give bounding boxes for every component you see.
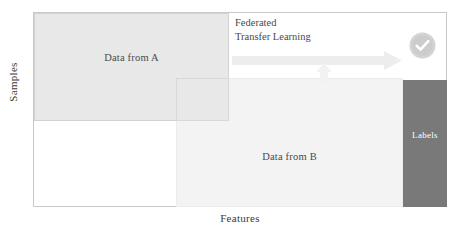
data-block-a-label: Data from A bbox=[35, 52, 228, 63]
check-circle-icon bbox=[409, 32, 436, 59]
labels-column: Labels bbox=[403, 80, 447, 207]
arrow-group bbox=[232, 50, 407, 84]
caption-line-1: Federated bbox=[235, 16, 395, 30]
x-axis-label: Features bbox=[33, 212, 447, 224]
y-axis-label: Samples bbox=[7, 47, 19, 117]
labels-column-label: Labels bbox=[403, 130, 447, 140]
right-arrow-icon bbox=[232, 51, 402, 70]
data-block-b-label: Data from B bbox=[177, 151, 402, 162]
caption-line-2: Transfer Learning bbox=[235, 30, 395, 44]
federated-transfer-learning-caption: Federated Transfer Learning bbox=[235, 16, 395, 44]
diagram-root: Data from A Data from B Labels Federated… bbox=[0, 0, 456, 237]
overlap-region bbox=[176, 78, 229, 121]
arrow-svg bbox=[232, 50, 407, 84]
up-arrow-icon bbox=[316, 63, 332, 84]
